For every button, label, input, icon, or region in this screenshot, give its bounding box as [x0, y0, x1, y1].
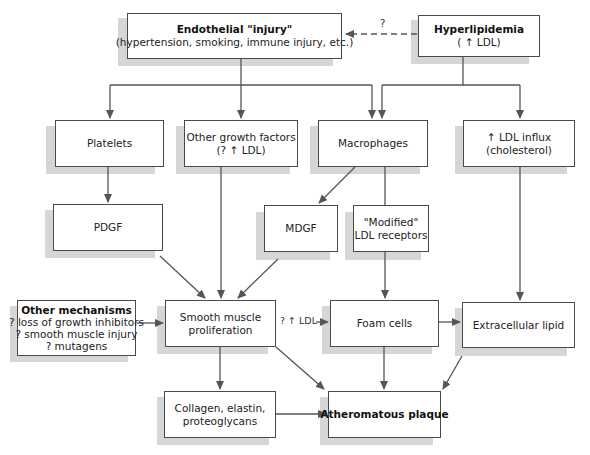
node-mdgf: MDGF: [264, 205, 338, 252]
node-extracellular-lipid: Extracellular lipid: [462, 302, 575, 348]
node-text: proteoglycans: [183, 415, 257, 428]
node-text: Platelets: [87, 137, 132, 150]
node-title: Endothelial "injury": [177, 23, 293, 36]
node-text: proliferation: [188, 324, 252, 337]
node-endothelial-injury: Endothelial "injury" (hypertension, smok…: [127, 13, 342, 59]
node-platelets: Platelets: [55, 120, 164, 167]
node-title: Atheromatous plaque: [320, 408, 448, 421]
node-foam-cells: Foam cells: [330, 300, 439, 347]
node-text: Macrophages: [338, 137, 408, 150]
node-text: "Modified": [364, 216, 418, 229]
node-text: MDGF: [285, 222, 316, 235]
node-text: Collagen, elastin,: [175, 402, 266, 415]
node-text: (? ↑ LDL): [216, 144, 265, 157]
node-text: LDL receptors: [355, 229, 428, 242]
edge-label-question: ?: [380, 18, 385, 29]
node-other-growth-factors: Other growth factors (? ↑ LDL): [184, 120, 298, 167]
edge-label-ldl: ? ↑ LDL: [280, 315, 317, 326]
node-collagen-elastin-proteoglycans: Collagen, elastin, proteoglycans: [164, 391, 276, 438]
node-text: ? loss of growth inhibitors: [9, 316, 144, 328]
node-macrophages: Macrophages: [318, 120, 428, 167]
node-pdgf: PDGF: [53, 204, 163, 251]
atherosclerosis-flow-diagram: ? ? ↑ LDL Endothelial "injury" (hyperten…: [0, 0, 590, 455]
node-text: Extracellular lipid: [473, 319, 565, 332]
node-text: (cholesterol): [486, 144, 552, 157]
node-subtitle: (hypertension, smoking, immune injury, e…: [116, 36, 354, 49]
node-other-mechanisms: Other mechanisms ? loss of growth inhibi…: [17, 300, 136, 356]
node-smooth-muscle-proliferation: Smooth muscle proliferation: [165, 300, 276, 347]
node-ldl-influx: ↑ LDL influx (cholesterol): [463, 120, 575, 167]
node-text: ? mutagens: [46, 340, 108, 352]
node-text: PDGF: [94, 221, 123, 234]
node-hyperlipidemia: Hyperlipidemia ( ↑ LDL): [418, 15, 540, 57]
node-text: Other growth factors: [186, 131, 295, 144]
node-text: ↑ LDL influx: [487, 131, 551, 144]
node-atheromatous-plaque: Atheromatous plaque: [328, 391, 441, 438]
node-title: Other mechanisms: [21, 304, 132, 316]
node-text: Smooth muscle: [180, 311, 261, 324]
node-subtitle: ( ↑ LDL): [457, 36, 500, 49]
node-text: ? smooth muscle injury: [15, 328, 137, 340]
node-text: Foam cells: [357, 317, 413, 330]
node-modified-ldl-receptors: "Modified" LDL receptors: [353, 205, 429, 252]
node-title: Hyperlipidemia: [434, 23, 524, 36]
